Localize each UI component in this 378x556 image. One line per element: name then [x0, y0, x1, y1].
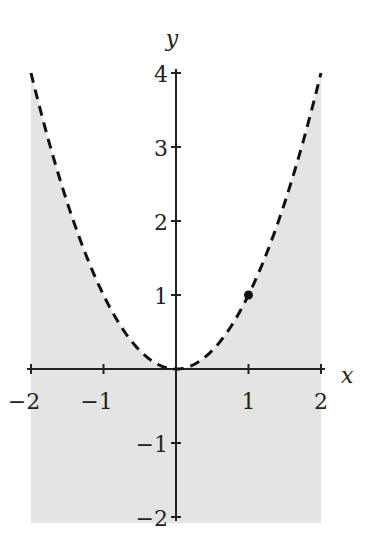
x-tick-label: 2: [314, 389, 328, 414]
y-axis-label: y: [165, 26, 179, 51]
x-tick-label: −1: [80, 389, 112, 414]
x-tick-label: −2: [8, 389, 40, 414]
y-tick-label: 4: [154, 62, 168, 87]
y-tick-label: 1: [154, 284, 168, 309]
x-tick-label: 1: [242, 389, 256, 414]
data-point: [244, 291, 253, 300]
y-tick-label: 2: [154, 210, 168, 235]
y-tick-label: −2: [136, 506, 168, 531]
y-tick-label: 3: [154, 136, 168, 161]
y-tick-label: −1: [136, 432, 168, 457]
chart: −2−112 −2−11234 x y: [0, 0, 378, 556]
x-axis-label: x: [341, 363, 354, 388]
data-points: [244, 291, 253, 300]
